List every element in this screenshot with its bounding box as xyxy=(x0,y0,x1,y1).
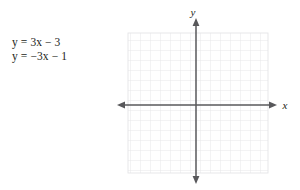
y-axis-arrow-up xyxy=(193,18,200,26)
y-axis-arrow-down xyxy=(193,176,200,184)
y-axis-label: y xyxy=(190,6,196,18)
worksheet-figure: y = 3x − 3 y = −3x − 1 xyxy=(0,0,300,190)
equation-list: y = 3x − 3 y = −3x − 1 xyxy=(12,36,108,63)
equation-line-1: y = 3x − 3 xyxy=(12,36,108,50)
coordinate-graph: x y xyxy=(110,0,300,190)
graph-grid xyxy=(128,33,268,173)
x-axis-arrow-right xyxy=(269,102,277,109)
x-axis-label: x xyxy=(282,99,288,111)
x-axis-arrow-left xyxy=(117,102,125,109)
equation-line-2: y = −3x − 1 xyxy=(12,50,108,64)
